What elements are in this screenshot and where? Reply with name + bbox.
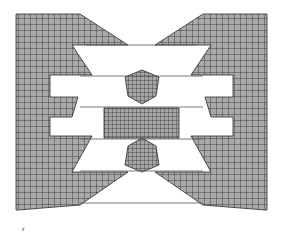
mesh-figure: z bbox=[0, 0, 283, 250]
mesh-parts bbox=[16, 14, 267, 210]
center-workpiece bbox=[104, 108, 179, 138]
axis-marker: z bbox=[22, 226, 25, 232]
lower-punch-tip bbox=[125, 138, 159, 172]
mesh-diagram bbox=[0, 0, 283, 250]
upper-punch-tip bbox=[125, 70, 159, 104]
